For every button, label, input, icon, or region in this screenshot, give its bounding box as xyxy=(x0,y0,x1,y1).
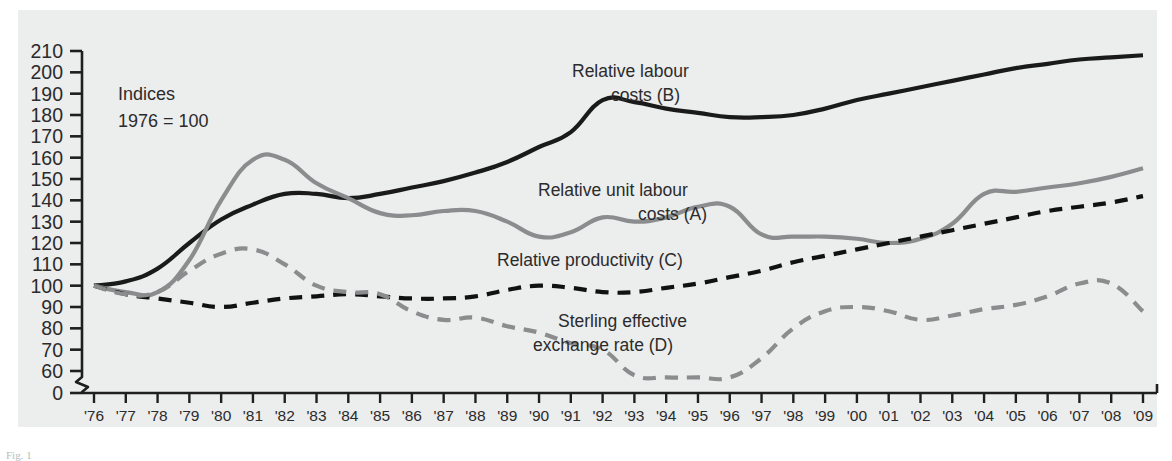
x-tick-label: '01 xyxy=(879,407,899,424)
line-chart: 0607080901001101201301401501601701801902… xyxy=(0,0,1172,461)
indices-label-line1: Indices xyxy=(118,84,175,104)
x-tick-label: '92 xyxy=(593,407,613,424)
x-tick-label: '04 xyxy=(974,407,995,424)
y-tick-label: 90 xyxy=(41,296,63,318)
x-tick-label: '88 xyxy=(465,407,485,424)
figure-container: 0607080901001101201301401501601701801902… xyxy=(0,0,1172,461)
x-tick-label: '84 xyxy=(338,407,359,424)
y-tick-label: 170 xyxy=(30,125,63,147)
x-tick-label: '87 xyxy=(434,407,454,424)
x-tick-label: '79 xyxy=(179,407,199,424)
x-tick-label: '98 xyxy=(783,407,803,424)
y-tick-label: 140 xyxy=(30,189,63,211)
x-axis xyxy=(82,384,1157,403)
series-label-a-line1: Relative unit labour xyxy=(538,180,688,200)
x-tick-label: '05 xyxy=(1006,407,1026,424)
y-tick-label: 130 xyxy=(30,211,63,233)
y-tick-label: 60 xyxy=(41,360,63,382)
x-tick-label: '06 xyxy=(1038,407,1058,424)
y-tick-label: 70 xyxy=(41,339,63,361)
x-tick-label: '00 xyxy=(847,407,868,424)
x-tick-label: '82 xyxy=(275,407,295,424)
series-label-a-line2: costs (A) xyxy=(638,204,707,224)
x-tick-label: '97 xyxy=(751,407,771,424)
y-tick-label: 150 xyxy=(30,168,63,190)
series-label-d-line1: Sterling effective xyxy=(558,311,687,331)
figure-caption: Fig. 1 xyxy=(6,449,32,461)
indices-label-line2: 1976 = 100 xyxy=(118,111,209,131)
y-tick-label: 180 xyxy=(30,104,63,126)
y-tick-label: 100 xyxy=(30,275,63,297)
x-tick-label: '02 xyxy=(910,407,930,424)
y-tick-label: 200 xyxy=(30,61,63,83)
x-tick-label: '07 xyxy=(1069,407,1089,424)
x-axis-tick-labels: '76'77'78'79'80'81'82'83'84'85'86'87'88'… xyxy=(84,407,1153,424)
x-tick-label: '91 xyxy=(561,407,581,424)
y-tick-label: 160 xyxy=(30,147,63,169)
x-tick-label: '78 xyxy=(147,407,167,424)
x-tick-label: '86 xyxy=(402,407,422,424)
x-tick-label: '77 xyxy=(116,407,136,424)
x-tick-label: '99 xyxy=(815,407,835,424)
y-tick-label: 190 xyxy=(30,83,63,105)
y-tick-label: 210 xyxy=(30,40,63,62)
series-label-d-line2: exchange rate (D) xyxy=(533,335,673,355)
x-tick-label: '96 xyxy=(720,407,740,424)
x-tick-label: '95 xyxy=(688,407,708,424)
y-tick-label: 80 xyxy=(41,317,63,339)
x-tick-label: '76 xyxy=(84,407,104,424)
x-tick-label: '94 xyxy=(656,407,677,424)
y-tick-label: 120 xyxy=(30,232,63,254)
y-tick-label: 110 xyxy=(32,253,63,275)
series-label-c: Relative productivity (C) xyxy=(497,250,683,270)
x-tick-label: '83 xyxy=(306,407,326,424)
x-tick-label: '81 xyxy=(243,407,263,424)
x-tick-label: '80 xyxy=(211,407,232,424)
x-tick-label: '93 xyxy=(624,407,644,424)
y-tick-label: 0 xyxy=(52,382,63,404)
y-axis xyxy=(70,51,88,393)
series-label-b-line1: Relative labour xyxy=(572,61,689,81)
x-tick-label: '89 xyxy=(497,407,517,424)
series-label-b-line2: costs (B) xyxy=(611,85,680,105)
x-tick-label: '90 xyxy=(529,407,550,424)
x-tick-label: '08 xyxy=(1101,407,1121,424)
x-tick-label: '03 xyxy=(942,407,962,424)
y-axis-tick-labels: 0607080901001101201301401501601701801902… xyxy=(30,40,63,404)
x-tick-label: '85 xyxy=(370,407,390,424)
x-tick-label: '09 xyxy=(1133,407,1153,424)
